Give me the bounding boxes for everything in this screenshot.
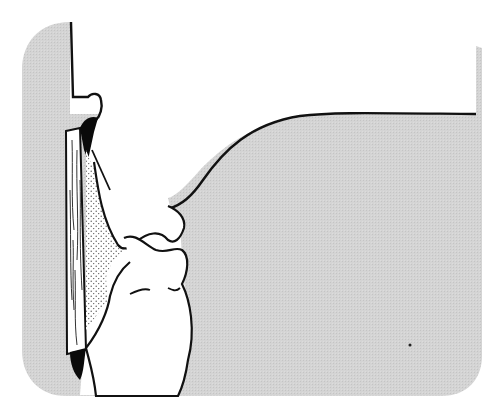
speck [409,344,412,347]
illustration [0,0,498,402]
diagram-canvas [0,0,498,402]
